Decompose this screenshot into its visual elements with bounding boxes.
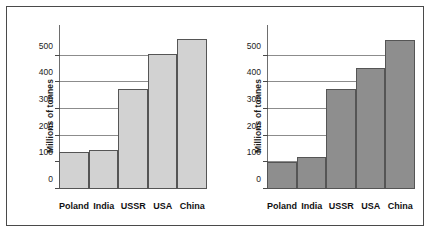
x-axis-label-ussr: USSR <box>327 201 357 211</box>
right-bars <box>267 29 415 189</box>
left-plot-area: 0100200300400500 <box>59 29 207 189</box>
bar-slot <box>385 29 415 189</box>
bar-india[interactable] <box>297 157 327 189</box>
y-tick-label: 0 <box>48 174 53 184</box>
y-tick-label: 300 <box>247 94 261 104</box>
y-tick-label: 0 <box>256 174 261 184</box>
y-tick-label: 400 <box>247 67 261 77</box>
y-tick-label: 100 <box>247 147 261 157</box>
bar-slot <box>326 29 356 189</box>
x-axis-label-usa: USA <box>356 201 386 211</box>
y-axis-title: Millions of tonnes <box>45 79 55 153</box>
y-axis-title: Millions of tonnes <box>253 79 263 153</box>
bar-india[interactable] <box>89 150 119 189</box>
x-axis-label-usa: USA <box>148 201 178 211</box>
x-axis-label-china: China <box>178 201 208 211</box>
right-x-labels: PolandIndiaUSSRUSAChina <box>267 201 415 211</box>
y-tick-label: 300 <box>39 94 53 104</box>
bar-slot <box>356 29 386 189</box>
y-tick-label: 500 <box>39 41 53 51</box>
bar-usa[interactable] <box>148 54 178 189</box>
bar-slot <box>148 29 178 189</box>
bar-china[interactable] <box>177 39 207 189</box>
left-x-labels: PolandIndiaUSSRUSAChina <box>59 201 207 211</box>
y-tick-label: 100 <box>39 147 53 157</box>
x-axis-label-india: India <box>297 201 327 211</box>
bar-slot <box>297 29 327 189</box>
y-tick-label: 200 <box>247 121 261 131</box>
x-axis-label-india: India <box>89 201 119 211</box>
y-tick-label: 200 <box>39 121 53 131</box>
left-bar-chart: Millions of tonnes 0100200300400500 Pola… <box>7 7 215 225</box>
right-plot-area: 0100200300400500 <box>267 29 415 189</box>
bar-usa[interactable] <box>356 68 386 189</box>
figure-frame: Millions of tonnes 0100200300400500 Pola… <box>6 6 424 226</box>
bar-ussr[interactable] <box>118 89 148 189</box>
x-axis-label-ussr: USSR <box>119 201 149 211</box>
x-axis-label-poland: Poland <box>267 201 297 211</box>
bar-slot <box>89 29 119 189</box>
y-tick-label: 400 <box>39 67 53 77</box>
charts-row: Millions of tonnes 0100200300400500 Pola… <box>7 7 423 225</box>
x-axis-label-china: China <box>386 201 416 211</box>
bar-slot <box>118 29 148 189</box>
bar-slot <box>59 29 89 189</box>
bar-ussr[interactable] <box>326 89 356 189</box>
x-axis-label-poland: Poland <box>59 201 89 211</box>
bar-slot <box>267 29 297 189</box>
bar-slot <box>177 29 207 189</box>
y-tick-label: 500 <box>247 41 261 51</box>
bar-poland[interactable] <box>59 152 89 189</box>
right-bar-chart: Millions of tonnes 0100200300400500 Pola… <box>215 7 423 225</box>
bar-poland[interactable] <box>267 162 297 189</box>
left-bars <box>59 29 207 189</box>
bar-china[interactable] <box>385 40 415 189</box>
